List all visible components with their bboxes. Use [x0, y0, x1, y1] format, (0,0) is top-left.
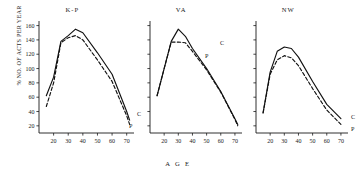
x-tick-label: 60 — [324, 138, 330, 144]
x-tick-label: 20 — [51, 138, 57, 144]
panel-nw: NW203040506070CP — [253, 6, 355, 144]
x-tick-label: 70 — [338, 138, 344, 144]
panel-title: VA — [176, 6, 187, 13]
y-tick-label: 140 — [26, 37, 35, 43]
y-tick-label: 160 — [26, 23, 35, 29]
x-tick-label: 30 — [175, 138, 181, 144]
y-axis-label: % NO. OF ACTS PER YEAR — [15, 0, 22, 106]
y-tick-label: 120 — [26, 51, 35, 57]
x-tick-label: 40 — [189, 138, 195, 144]
panel-title: K-P — [66, 6, 80, 13]
series-label-p: P — [351, 125, 355, 132]
x-tick-label: 50 — [204, 138, 210, 144]
series-c — [46, 29, 129, 120]
series-label-c: C — [220, 39, 224, 46]
y-tick-label: 100 — [26, 66, 35, 72]
panel-va: VA203040506070CP — [147, 6, 242, 144]
x-tick-label: 50 — [94, 138, 100, 144]
series-c — [263, 47, 341, 119]
x-axis-label: A G E — [0, 160, 356, 167]
y-tick-label: 80 — [29, 80, 35, 86]
series-label-p: P — [129, 122, 133, 129]
panel-title: NW — [282, 6, 295, 13]
x-tick-label: 20 — [161, 138, 167, 144]
y-tick-label: 60 — [29, 94, 35, 100]
panel-k-p: K-P20406080100120140160203040506070CP — [26, 6, 142, 144]
series-p — [263, 56, 341, 125]
x-tick-label: 70 — [124, 138, 130, 144]
y-tick-label: 40 — [29, 109, 35, 115]
series-c — [157, 29, 238, 124]
x-tick-label: 40 — [295, 138, 301, 144]
x-tick-label: 20 — [267, 138, 273, 144]
series-label-p: P — [205, 52, 209, 59]
series-label-c: C — [351, 113, 355, 120]
x-tick-label: 60 — [218, 138, 224, 144]
x-tick-label: 60 — [109, 138, 115, 144]
series-label-c: C — [137, 110, 141, 117]
x-tick-label: 30 — [65, 138, 71, 144]
x-tick-label: 70 — [232, 138, 238, 144]
x-tick-label: 50 — [310, 138, 316, 144]
y-tick-label: 20 — [29, 123, 35, 129]
x-tick-label: 40 — [80, 138, 86, 144]
figure-root: % NO. OF ACTS PER YEAR K-P20406080100120… — [0, 0, 356, 171]
multi-panel-line-chart: K-P20406080100120140160203040506070CPVA2… — [0, 0, 356, 171]
x-tick-label: 30 — [281, 138, 287, 144]
